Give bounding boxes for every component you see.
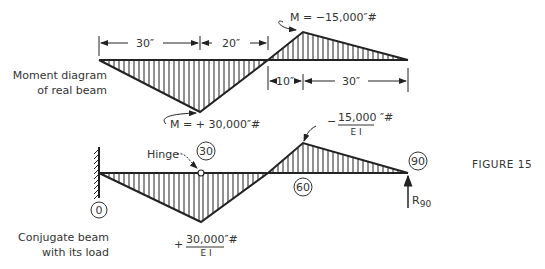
fixed-wall-icon bbox=[94, 147, 99, 199]
conjugate-caption-line1: Conjugate beam bbox=[18, 231, 109, 244]
negative-load-numerator: 15,000 ″# bbox=[338, 111, 393, 124]
hinge-leader-arrow bbox=[177, 154, 197, 168]
dim-30-top: 30″ bbox=[136, 37, 154, 50]
top-dimension-line bbox=[99, 36, 268, 56]
negative-moment-hatch bbox=[273, 32, 403, 60]
station-0: 0 bbox=[91, 202, 107, 218]
hinge-label: Hinge bbox=[147, 148, 179, 161]
max-positive-moment-label: M = + 30,000″# bbox=[170, 118, 260, 131]
dim-30-bottom: 30″ bbox=[342, 75, 360, 88]
conjugate-load-outline bbox=[99, 143, 408, 222]
svg-text:30: 30 bbox=[199, 145, 213, 158]
station-30: 30 bbox=[197, 142, 215, 160]
conjugate-beam: Hinge 0 30 60 90 R90 − 15,000 ″# E I + 3 bbox=[18, 111, 431, 259]
svg-text:0: 0 bbox=[96, 204, 103, 217]
negative-load-hatch bbox=[273, 143, 403, 173]
negative-load-denominator: E I bbox=[350, 127, 361, 137]
positive-load-sign: + bbox=[174, 238, 183, 251]
svg-text:60: 60 bbox=[296, 181, 310, 194]
svg-text:90: 90 bbox=[411, 155, 425, 168]
max-negative-moment-label: M = −15,000″# bbox=[290, 11, 377, 24]
station-90: 90 bbox=[409, 152, 427, 170]
station-60: 60 bbox=[294, 178, 312, 196]
figure-label: FIGURE 15 bbox=[472, 158, 532, 170]
conjugate-beam-figure: 30″ 20″ bbox=[0, 0, 545, 269]
leader-arrow-negative-load bbox=[304, 126, 316, 141]
moment-caption-line1: Moment diagram bbox=[13, 69, 107, 82]
hinge-icon bbox=[198, 170, 204, 176]
negative-load-sign: − bbox=[327, 115, 336, 128]
reaction-label: R90 bbox=[412, 194, 431, 209]
conjugate-caption-line2: with its load bbox=[42, 246, 109, 259]
positive-load-numerator: 30,000″# bbox=[186, 233, 238, 246]
positive-load-denominator: E I bbox=[200, 248, 211, 258]
dim-10-bottom: 10″ bbox=[276, 75, 294, 88]
dim-20-top: 20″ bbox=[222, 37, 240, 50]
moment-caption-line2: of real beam bbox=[37, 84, 107, 97]
